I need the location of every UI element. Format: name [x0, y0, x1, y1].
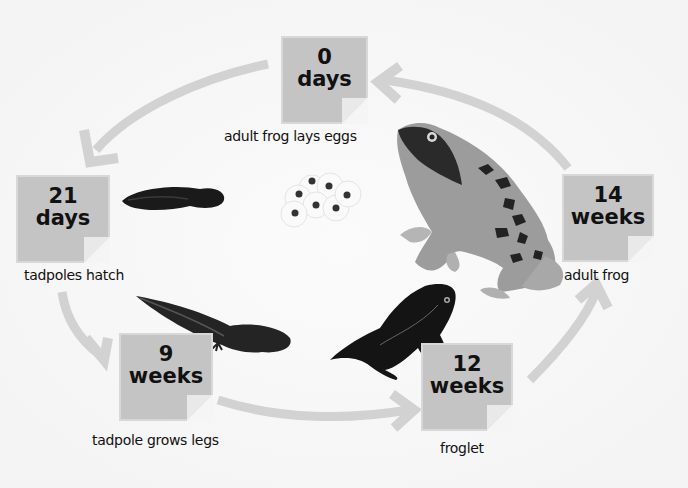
page-curl-icon: [342, 98, 368, 124]
stage-time-unit: days: [18, 207, 108, 229]
stage-time-value: 12: [423, 353, 511, 375]
page-curl-icon: [487, 405, 513, 431]
stage-time-value: 21: [18, 185, 108, 207]
frog-life-cycle-diagram: 0 days adult frog lays eggs 21 days tadp…: [0, 0, 688, 488]
page-curl-icon: [187, 395, 213, 421]
frog-eggs-icon: [281, 173, 361, 227]
stage-caption-0-days: adult frog lays eggs: [224, 128, 357, 144]
stage-time-unit: weeks: [564, 206, 652, 228]
page-curl-icon: [84, 237, 110, 263]
stage-card-12-weeks: 12 weeks: [421, 343, 513, 431]
stage-time-unit: weeks: [121, 365, 211, 387]
stage-card-0-days: 0 days: [281, 36, 368, 124]
stage-time-value: 0: [283, 46, 366, 68]
stage-caption-9-weeks: tadpole grows legs: [92, 432, 219, 448]
stage-time-value: 9: [121, 343, 211, 365]
stage-time-unit: days: [283, 68, 366, 90]
stage-caption-21-days: tadpoles hatch: [24, 267, 124, 283]
stage-time-value: 14: [564, 184, 652, 206]
stage-time-unit: weeks: [423, 375, 511, 397]
page-curl-icon: [628, 236, 654, 262]
stage-caption-12-weeks: froglet: [440, 440, 484, 456]
adult-frog-icon: [397, 123, 563, 299]
stage-caption-14-weeks: adult frog: [564, 267, 629, 283]
stage-card-9-weeks: 9 weeks: [119, 333, 213, 421]
stage-card-21-days: 21 days: [16, 175, 110, 263]
stage-card-14-weeks: 14 weeks: [562, 174, 654, 262]
tadpole-icon: [122, 187, 224, 210]
